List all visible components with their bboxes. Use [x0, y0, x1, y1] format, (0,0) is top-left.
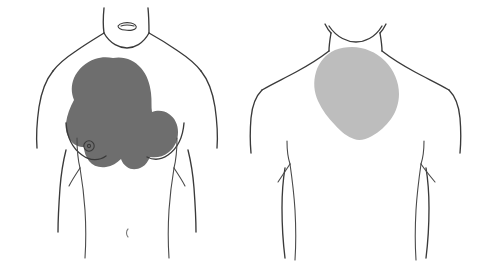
- body-diagram-container: Pain distribution body diagram Anterior …: [0, 0, 502, 272]
- anterior-neck-left-line: [103, 8, 104, 33]
- body-diagram-svg: [0, 0, 502, 272]
